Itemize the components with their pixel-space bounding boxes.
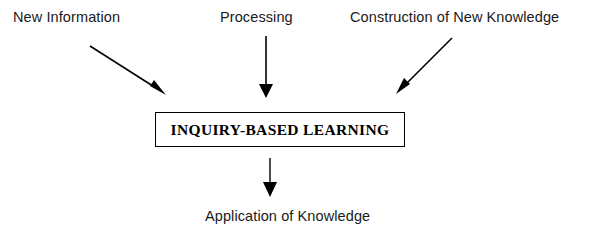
arrow-head-application [263, 182, 277, 197]
arrow-shaft-construction [406, 38, 452, 84]
arrow-construction-to-center [396, 38, 452, 94]
arrow-head-new-information [150, 80, 166, 95]
arrow-new-information-to-center [90, 46, 166, 95]
central-node-label: INQUIRY-BASED LEARNING [171, 122, 390, 138]
arrow-head-construction [396, 78, 410, 94]
arrow-processing-to-center [259, 36, 273, 98]
arrow-shaft-new-information [90, 46, 156, 88]
node-label-application-of-knowledge: Application of Knowledge [205, 209, 370, 224]
arrow-head-processing [259, 84, 273, 98]
arrow-center-to-application [263, 158, 277, 197]
central-node-inquiry-based-learning: INQUIRY-BASED LEARNING [155, 112, 405, 147]
diagram-canvas: New Information Processing Construction … [0, 0, 595, 236]
